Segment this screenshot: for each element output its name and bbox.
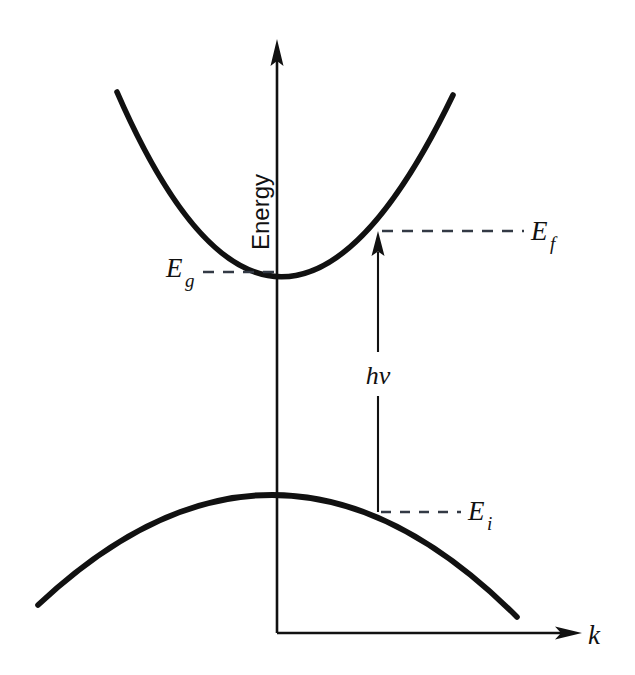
initial-state-label-subscript: i: [487, 513, 492, 534]
energy-axis-label: Energy: [247, 174, 274, 250]
photon-energy-label: hv: [366, 361, 391, 390]
conduction-band-curve: [117, 92, 453, 277]
k-axis: [277, 627, 582, 640]
initial-state-label: E i: [467, 496, 492, 534]
energy-axis: [271, 39, 284, 633]
final-state-label-base: E: [530, 216, 548, 246]
final-state-label-subscript: f: [550, 233, 558, 254]
k-axis-label: k: [588, 620, 601, 650]
band-gap-label-subscript: g: [185, 270, 195, 291]
final-state-label: E f: [530, 216, 558, 254]
band-gap-label: E g: [165, 253, 195, 291]
band-structure-figure: Energy k E g E f E i hv: [0, 0, 635, 675]
band-gap-label-base: E: [165, 253, 183, 283]
diagram-canvas: Energy k E g E f E i hv: [0, 0, 635, 675]
initial-state-label-base: E: [467, 496, 485, 526]
